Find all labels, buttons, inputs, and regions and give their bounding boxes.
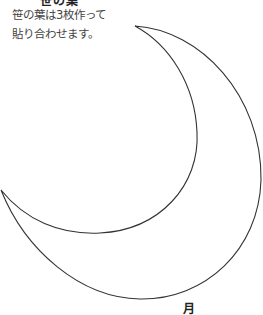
shape-label: 月 bbox=[183, 299, 195, 315]
crescent-moon-outline bbox=[0, 0, 263, 315]
crescent-path bbox=[1, 26, 261, 299]
